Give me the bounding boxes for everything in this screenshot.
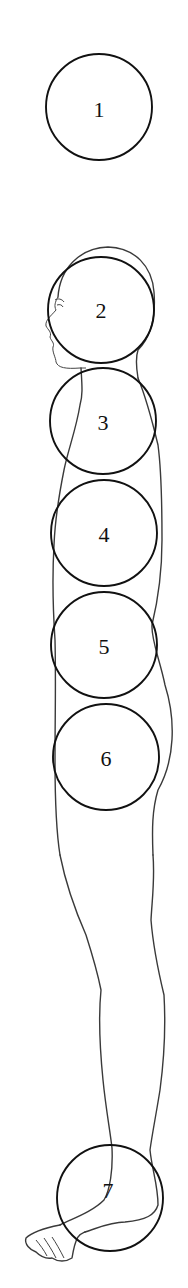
circle-4-abdomen: 4 (51, 480, 157, 586)
circle-2-label: 2 (96, 298, 107, 323)
circle-7-label: 7 (103, 1178, 114, 1203)
circle-6-label: 6 (101, 746, 112, 771)
circle-1: 1 (46, 54, 152, 160)
back-torso-outline (138, 378, 172, 855)
circle-5-label: 5 (99, 634, 110, 659)
front-leg-outline (60, 855, 112, 1225)
circle-3-label: 3 (98, 410, 109, 435)
back-leg-outline (85, 855, 165, 1232)
circle-4-label: 4 (99, 522, 110, 547)
circle-6-hips: 6 (53, 704, 159, 810)
circle-7-foot: 7 (57, 1145, 163, 1251)
circle-5-waist: 5 (51, 592, 157, 698)
circle-3-chest: 3 (50, 368, 156, 474)
circle-1-label: 1 (94, 97, 105, 122)
circle-2-head: 2 (48, 257, 154, 363)
numbered-circles: 1 2 3 4 5 6 7 (46, 54, 163, 1251)
body-circles-diagram: 1 2 3 4 5 6 7 (0, 0, 188, 1288)
front-torso-outline (53, 368, 82, 855)
